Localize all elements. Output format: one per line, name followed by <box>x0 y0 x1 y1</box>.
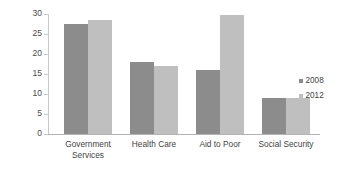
bar-group <box>64 14 112 134</box>
y-tick-mark <box>44 54 48 55</box>
y-tick-label: 25 <box>33 28 42 38</box>
y-tick-label: 0 <box>37 128 42 138</box>
y-tick-label: 10 <box>33 88 42 98</box>
legend-label: 2012 <box>306 91 324 101</box>
y-tick-mark <box>44 134 48 135</box>
bar[interactable] <box>130 62 154 134</box>
x-category-label: Social Security <box>246 139 326 150</box>
y-tick-label: 15 <box>33 68 42 78</box>
y-tick-mark <box>44 94 48 95</box>
bar[interactable] <box>64 24 88 134</box>
bar-group <box>196 14 244 134</box>
y-tick-label: 5 <box>37 108 42 118</box>
bar[interactable] <box>196 70 220 134</box>
legend-label: 2008 <box>306 76 324 86</box>
y-tick-label: 20 <box>33 48 42 58</box>
y-tick-mark <box>44 34 48 35</box>
y-tick-label: 30 <box>33 8 42 18</box>
legend-swatch-icon <box>299 79 303 83</box>
legend-swatch-icon <box>299 94 303 98</box>
bar[interactable] <box>154 66 178 134</box>
legend-item[interactable]: 2008 <box>299 73 340 88</box>
bar[interactable] <box>262 98 286 134</box>
bar[interactable] <box>286 98 310 134</box>
legend: 20082012 <box>299 73 340 103</box>
legend-item[interactable]: 2012 <box>299 88 340 103</box>
y-axis-line <box>48 14 49 134</box>
y-tick-mark <box>44 114 48 115</box>
x-axis-line <box>48 134 320 135</box>
bar[interactable] <box>220 15 244 134</box>
bar[interactable] <box>88 20 112 134</box>
y-tick-mark <box>44 74 48 75</box>
bar-group <box>130 14 178 134</box>
plot-area: 051015202530 <box>48 14 320 134</box>
bar-chart: Race Gap (%) 051015202530 Government Ser… <box>0 0 340 172</box>
y-tick-mark <box>44 14 48 15</box>
